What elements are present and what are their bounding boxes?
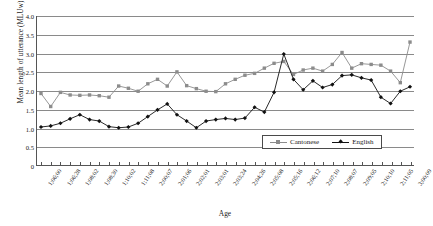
data-point-cantonese bbox=[408, 40, 411, 43]
data-point-cantonese bbox=[263, 66, 266, 69]
x-axis-tick-label: 1;06;00 bbox=[47, 168, 63, 187]
data-point-english bbox=[117, 126, 121, 130]
data-point-cantonese bbox=[127, 87, 130, 90]
x-axis-tick-label: 2;09;05 bbox=[361, 168, 377, 187]
x-axis-tick-label: 2;04;26 bbox=[250, 168, 266, 187]
data-point-cantonese bbox=[175, 70, 178, 73]
data-point-cantonese bbox=[117, 84, 120, 87]
data-point-cantonese bbox=[234, 78, 237, 81]
legend-label-cantonese: Cantonese bbox=[290, 138, 319, 146]
data-point-cantonese bbox=[272, 62, 275, 65]
x-axis-tick-label: 2;02;01 bbox=[195, 168, 211, 187]
english-marker-icon bbox=[332, 139, 349, 146]
data-point-english bbox=[262, 110, 266, 114]
data-point-english bbox=[272, 90, 276, 94]
data-point-english bbox=[359, 76, 363, 80]
data-point-cantonese bbox=[399, 81, 402, 84]
series-line-cantonese bbox=[41, 42, 410, 106]
data-point-english bbox=[107, 125, 111, 129]
cantonese-marker-icon bbox=[270, 139, 287, 146]
y-axis-tick-label: 4.0 bbox=[26, 13, 34, 20]
x-axis-tick-label: 2;10;10 bbox=[380, 168, 396, 187]
data-point-cantonese bbox=[88, 93, 91, 96]
y-axis-title: Mean length of utterance (MLUw) bbox=[17, 0, 25, 127]
x-axis-tick-label: 2;00;07 bbox=[158, 168, 174, 187]
data-point-english bbox=[369, 78, 373, 82]
data-point-english bbox=[126, 125, 130, 129]
y-axis-tick-label: 1.5 bbox=[26, 106, 34, 113]
data-point-cantonese bbox=[146, 82, 149, 85]
x-axis-tick-label: 2;05;16 bbox=[287, 168, 303, 187]
y-axis-tick-label: 3.5 bbox=[26, 31, 34, 38]
data-point-cantonese bbox=[350, 66, 353, 69]
data-point-english bbox=[87, 117, 91, 121]
x-axis-tick-label: 3;00;09 bbox=[417, 168, 433, 187]
data-point-cantonese bbox=[136, 90, 139, 93]
y-axis-tick-label: 3.0 bbox=[26, 50, 34, 57]
data-point-english bbox=[350, 73, 354, 77]
data-point-english bbox=[68, 117, 72, 121]
data-point-cantonese bbox=[59, 91, 62, 94]
data-point-cantonese bbox=[156, 78, 159, 81]
data-point-cantonese bbox=[369, 63, 372, 66]
data-point-cantonese bbox=[78, 94, 81, 97]
x-axis-tick-label: 2;03;24 bbox=[232, 168, 248, 187]
data-point-english bbox=[49, 124, 53, 128]
x-axis-tick-label: 2;06;12 bbox=[306, 168, 322, 187]
legend-item-cantonese: Cantonese bbox=[270, 138, 319, 146]
data-point-english bbox=[233, 117, 237, 121]
x-axis-tick-labels: 1;06;001;06;281;08;021;08;301;10;021;11;… bbox=[36, 168, 414, 210]
x-axis-tick-label: 2;07;10 bbox=[324, 168, 340, 187]
data-point-cantonese bbox=[311, 66, 314, 69]
x-axis-tick-label: 1;08;02 bbox=[84, 168, 100, 187]
y-axis-tick-label: 2.0 bbox=[26, 88, 34, 95]
data-point-english bbox=[39, 125, 43, 129]
legend-label-english: English bbox=[352, 138, 373, 146]
data-point-cantonese bbox=[389, 69, 392, 72]
data-point-cantonese bbox=[49, 105, 52, 108]
data-point-cantonese bbox=[166, 84, 169, 87]
data-point-cantonese bbox=[379, 63, 382, 66]
y-axis-tick-label: 2.5 bbox=[26, 69, 34, 76]
chart-legend: Cantonese English bbox=[262, 135, 382, 149]
data-point-cantonese bbox=[301, 68, 304, 71]
y-axis-tick-label: 0 bbox=[31, 163, 34, 170]
x-axis-tick-label: 1;08;30 bbox=[102, 168, 118, 187]
data-point-english bbox=[97, 119, 101, 123]
x-axis-tick-label: 1;06;28 bbox=[65, 168, 81, 187]
data-point-cantonese bbox=[185, 84, 188, 87]
data-point-english bbox=[223, 116, 227, 120]
x-axis-tick-label: 2;03;01 bbox=[213, 168, 229, 187]
data-point-cantonese bbox=[224, 82, 227, 85]
data-point-cantonese bbox=[68, 93, 71, 96]
data-point-cantonese bbox=[253, 72, 256, 75]
data-point-cantonese bbox=[107, 96, 110, 99]
x-axis-tick-label: 2;01;06 bbox=[176, 168, 192, 187]
data-point-english bbox=[58, 121, 62, 125]
data-point-cantonese bbox=[204, 90, 207, 93]
x-axis-tick-label: 2;05;08 bbox=[269, 168, 285, 187]
data-point-cantonese bbox=[243, 74, 246, 77]
data-point-cantonese bbox=[340, 51, 343, 54]
data-point-cantonese bbox=[98, 94, 101, 97]
data-point-cantonese bbox=[321, 69, 324, 72]
legend-item-english: English bbox=[332, 138, 373, 146]
x-axis-title: Age bbox=[36, 209, 414, 218]
data-point-english bbox=[408, 85, 412, 89]
data-point-english bbox=[78, 113, 82, 117]
data-point-english bbox=[214, 117, 218, 121]
y-axis-tick-label: 0.5 bbox=[26, 144, 34, 151]
data-point-cantonese bbox=[195, 87, 198, 90]
x-axis-tick-label: 2;11;05 bbox=[398, 168, 413, 187]
data-point-cantonese bbox=[360, 62, 363, 65]
data-point-cantonese bbox=[39, 92, 42, 95]
y-axis-tick-label: 1.0 bbox=[26, 125, 34, 132]
data-point-cantonese bbox=[214, 90, 217, 93]
x-axis-tick-label: 1;10;02 bbox=[121, 168, 137, 187]
x-axis-tick-label: 1;11;08 bbox=[139, 168, 154, 187]
data-point-cantonese bbox=[331, 63, 334, 66]
data-point-english bbox=[282, 52, 286, 56]
x-axis-tick-label: 2;08;07 bbox=[343, 168, 359, 187]
